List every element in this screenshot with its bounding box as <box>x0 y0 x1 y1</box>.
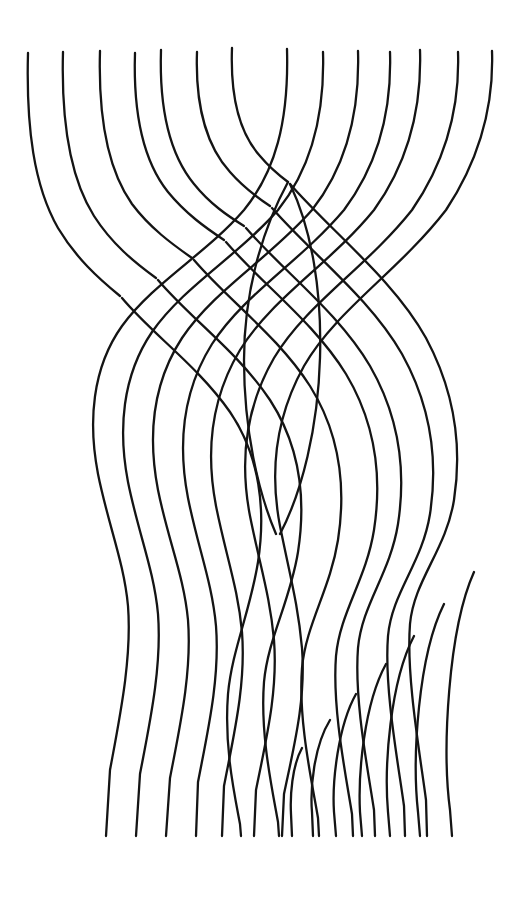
canvas-background <box>0 0 529 906</box>
figure-page: Rope <box>0 0 529 906</box>
rope-braid <box>0 0 529 906</box>
